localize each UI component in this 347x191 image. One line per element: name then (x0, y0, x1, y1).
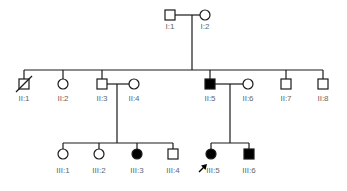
label-I1: I:1 (166, 22, 175, 31)
label-II1: II:1 (18, 94, 30, 103)
male-symbol-II8 (318, 79, 328, 89)
label-II8: II:8 (317, 94, 329, 103)
label-II3: II:3 (96, 94, 108, 103)
label-II5: II:5 (204, 94, 216, 103)
label-II2: II:2 (57, 94, 69, 103)
affected-female-symbol-III5 (206, 149, 216, 159)
label-III6: III:6 (242, 166, 256, 175)
label-II6: II:6 (242, 94, 254, 103)
pedigree-diagram: I:1 I:2 II:1 II:2 II:3 II:4 II:5 II:6 II… (0, 0, 347, 191)
male-symbol-III4 (168, 149, 178, 159)
affected-male-symbol-III6 (244, 149, 254, 159)
label-II4: II:4 (128, 94, 140, 103)
affected-male-symbol-II5 (205, 79, 215, 89)
female-symbol-III2 (94, 149, 104, 159)
female-symbol-II6 (243, 79, 253, 89)
female-symbol-II2 (58, 79, 68, 89)
male-symbol-II7 (281, 79, 291, 89)
male-symbol-II3 (97, 79, 107, 89)
individuals (16, 10, 328, 159)
female-symbol-III1 (58, 149, 68, 159)
label-III3: III:3 (130, 166, 144, 175)
label-III4: III:4 (166, 166, 180, 175)
label-II7: II:7 (280, 94, 292, 103)
female-symbol-II4 (129, 79, 139, 89)
female-symbol-I2 (200, 10, 210, 20)
affected-female-symbol-III3 (132, 149, 142, 159)
label-I2: I:2 (201, 22, 210, 31)
label-III2: III:2 (92, 166, 106, 175)
label-III1: III:1 (56, 166, 70, 175)
male-symbol-I1 (165, 10, 175, 20)
connector-lines (24, 15, 323, 149)
label-III5: III:5 (206, 166, 220, 175)
